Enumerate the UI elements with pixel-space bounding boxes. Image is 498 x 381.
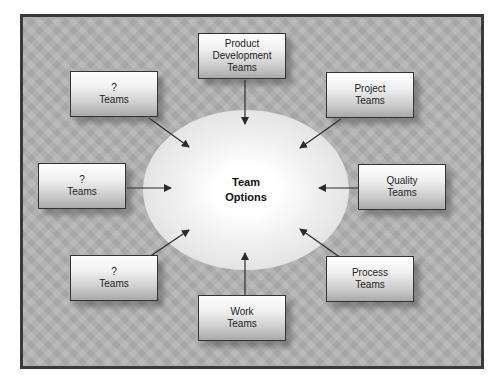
box-unknown-bottom-left: ? Teams xyxy=(70,255,158,301)
diagram-frame: Team Options Product Development Teams ?… xyxy=(20,14,484,369)
box-unknown-mid-left: ? Teams xyxy=(38,163,126,209)
box-label: ? xyxy=(111,82,117,94)
arrow-unknown-top-left xyxy=(149,118,189,147)
box-label: Product xyxy=(225,38,259,50)
box-product-development: Product Development Teams xyxy=(198,33,286,79)
box-label: Teams xyxy=(355,95,384,107)
box-label: Teams xyxy=(99,278,128,290)
box-label: Project xyxy=(354,83,385,95)
box-label: Quality xyxy=(386,175,417,187)
box-process: Process Teams xyxy=(326,256,414,302)
arrow-project xyxy=(300,119,341,148)
box-label: Teams xyxy=(67,186,96,198)
box-label: Teams xyxy=(387,187,416,199)
box-label: Development xyxy=(213,50,272,62)
box-label: Teams xyxy=(355,279,384,291)
box-label: Work xyxy=(230,306,253,318)
box-quality: Quality Teams xyxy=(358,164,446,210)
box-project: Project Teams xyxy=(326,72,414,118)
arrow-process xyxy=(300,229,341,258)
box-label: ? xyxy=(111,266,117,278)
box-work: Work Teams xyxy=(198,295,286,341)
arrow-unknown-bottom-left xyxy=(149,230,189,257)
box-label: ? xyxy=(79,174,85,186)
box-label: Teams xyxy=(227,318,256,330)
box-unknown-top-left: ? Teams xyxy=(70,71,158,117)
box-label: Teams xyxy=(99,94,128,106)
box-label: Process xyxy=(352,267,388,279)
box-label: Teams xyxy=(227,62,256,74)
